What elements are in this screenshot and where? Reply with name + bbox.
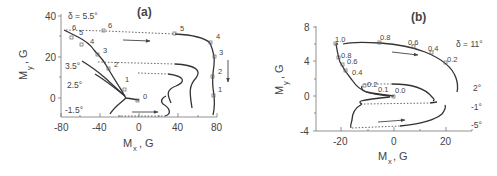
svg-text:x: x: [388, 157, 392, 166]
panel-b-ytick: -4: [300, 126, 309, 137]
panel-a-tilt-label: 3.5°: [65, 61, 80, 71]
panel-a-delta-label: δ = 5.5°: [68, 11, 98, 21]
panel-a-curve-3-5-right: [175, 64, 198, 108]
panel-b-point-label: 0.4: [352, 68, 362, 77]
panel-a-point-label: 4: [90, 37, 94, 46]
svg-text:, G: , G: [17, 49, 29, 64]
panel-b-point-label: 0.2: [447, 55, 457, 64]
panel-b-tilt-label: 2°: [473, 83, 481, 93]
panel-a-curve-2-5-right: [168, 74, 182, 103]
panel-b-dotted-neg-5: [352, 126, 400, 128]
panel-a-curve-neg-1-5: [110, 98, 126, 114]
panel-b-point-label: 0.8: [380, 33, 390, 42]
panel-b-curve-neg-1: [360, 97, 390, 104]
svg-text:y: y: [281, 81, 290, 85]
panel-b-ytick: 4: [304, 56, 310, 67]
panel-a-point-label: 5: [79, 28, 83, 37]
svg-text:M: M: [123, 137, 132, 149]
panel-a-point-label: 6: [108, 21, 112, 30]
svg-text:y: y: [25, 66, 34, 70]
panel-a-point-label: 1: [125, 75, 129, 84]
panel-a: (a) 40 20 0 -80 -40 0 4: [17, 5, 228, 153]
panel-b-point-label: 0.2: [367, 80, 377, 89]
svg-text:, G: , G: [273, 64, 285, 79]
panel-b-ylabel: M y , G: [273, 64, 290, 95]
panel-b-point-label: 0.6: [347, 57, 357, 66]
svg-text:M: M: [378, 150, 387, 162]
panel-b-arrow-right: [378, 120, 405, 122]
panel-b-tilt-label: -1°: [471, 102, 482, 112]
svg-text:x: x: [133, 144, 137, 153]
panel-b-ytick: 8: [304, 22, 310, 33]
panel-a-ylabel: M y , G: [17, 49, 34, 80]
panel-a-title: (a): [137, 5, 152, 19]
panel-a-xtick: 40: [172, 122, 184, 133]
panel-a-point-label: 2: [114, 60, 118, 69]
panel-b-xtick: 0: [391, 136, 397, 147]
panel-b: (b) 8 4 0 -4 -20 0 20 M x , G: [273, 10, 483, 166]
panel-b-curve-neg-5: [351, 104, 362, 128]
panel-b-arrow-right: [392, 52, 418, 55]
panel-b-point-label: 0.4: [428, 44, 438, 53]
panel-b-curve-neg-1-right: [430, 102, 437, 103]
panel-a-curve-2-5: [95, 74, 125, 96]
panel-a-point-label: 3: [219, 48, 223, 57]
panel-b-ytick: 0: [304, 91, 310, 102]
panel-a-tilt-label: 2.5°: [67, 80, 82, 90]
panel-a-arrow-right: [123, 40, 150, 41]
panel-b-xtick: 20: [440, 136, 452, 147]
panel-a-ytick: 20: [45, 52, 57, 63]
panel-a-ytick: 0: [50, 93, 56, 104]
panel-a-point-label: 1: [218, 85, 222, 94]
panel-b-tilt-label: -5°: [471, 120, 482, 130]
panel-a-curve-neg-1-5-right: [162, 96, 170, 116]
svg-text:M: M: [17, 71, 29, 80]
svg-text:, G: , G: [393, 150, 408, 162]
panel-b-title: (b): [411, 10, 426, 24]
panel-b-curve-neg-5-right: [400, 105, 445, 126]
panel-a-curve-right: [175, 34, 215, 115]
panel-a-dotted-2-5: [138, 73, 168, 74]
svg-text:M: M: [273, 86, 285, 95]
panel-a-point-label: 6: [72, 23, 76, 32]
panel-b-point-label: 1.0: [335, 35, 345, 44]
panel-b-xtick: -20: [333, 136, 348, 147]
panel-a-xlabel: M x , G: [123, 137, 154, 153]
panel-a-xtick: 0: [136, 122, 142, 133]
panel-a-point-label: 3: [103, 46, 107, 55]
panel-b-delta-label: δ = 11°: [456, 39, 483, 49]
panel-b-point-label: 0.6: [408, 38, 418, 47]
panel-b-xlabel: M x , G: [378, 150, 408, 166]
panel-b-point-label: 0.1: [378, 85, 388, 94]
panel-a-xtick: -80: [54, 122, 69, 133]
panel-a-xtick: -40: [92, 122, 107, 133]
panel-a-tilt-label: -1.5°: [65, 105, 83, 115]
panel-b-point-label: 0.0: [395, 86, 405, 95]
svg-text:, G: , G: [139, 137, 154, 149]
panel-a-point-label: 5: [180, 24, 184, 33]
panel-a-point-label: 2: [218, 67, 222, 76]
panel-a-point-label: 4: [216, 32, 220, 41]
panel-a-ytick: 40: [45, 11, 57, 22]
panel-a-xtick: 80: [211, 122, 223, 133]
figure: (a) 40 20 0 -80 -40 0 4: [0, 0, 497, 176]
panel-b-dotted-neg-1: [364, 103, 430, 104]
panel-a-dotted-3-5: [98, 62, 175, 64]
panel-a-point-label: 0: [143, 92, 147, 101]
